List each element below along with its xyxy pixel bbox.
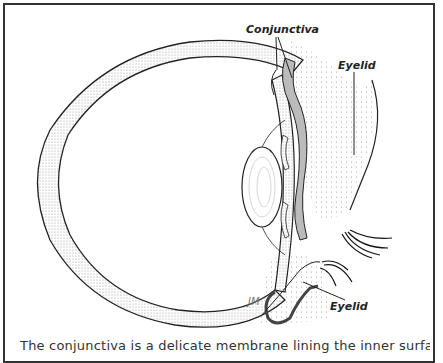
label-upper-eyelid: Eyelid xyxy=(338,59,376,72)
figure-caption: The conjunctiva is a delicate membrane l… xyxy=(20,338,430,353)
upper-eyelashes xyxy=(342,230,392,258)
lens xyxy=(242,147,282,227)
label-lower-eyelid: Eyelid xyxy=(330,300,368,313)
artist-signature: JM xyxy=(248,296,260,307)
label-conjunctiva: Conjunctiva xyxy=(246,23,319,36)
